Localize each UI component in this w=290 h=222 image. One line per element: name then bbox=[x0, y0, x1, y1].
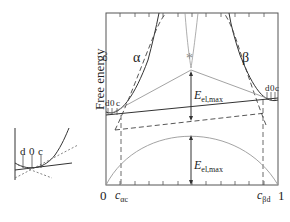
lower-dome bbox=[106, 136, 278, 185]
x-tick-c-alpha: cαc bbox=[115, 188, 128, 204]
plot-frame bbox=[106, 13, 278, 185]
left-point-d: d bbox=[105, 98, 110, 108]
upper-emax-label: Eel,max bbox=[194, 88, 223, 104]
beta-dashed-curve bbox=[224, 13, 266, 125]
alpha-label: α bbox=[133, 50, 140, 66]
right-point-d: d bbox=[265, 83, 270, 93]
x-tick-one: 1 bbox=[278, 188, 285, 204]
star-marker: * bbox=[186, 51, 193, 67]
free-energy-diagram bbox=[0, 0, 290, 222]
left-tangent-gray bbox=[112, 70, 191, 113]
common-tangent bbox=[106, 98, 278, 115]
x-tick-zero: 0 bbox=[100, 188, 107, 204]
x-tick-c-beta: cβd bbox=[257, 188, 270, 204]
left-point-c: c bbox=[116, 98, 120, 108]
right-point-0: 0 bbox=[270, 83, 275, 93]
left-point-0: 0 bbox=[110, 98, 115, 108]
inset-label-c: c bbox=[38, 145, 43, 157]
alpha-dashed-curve bbox=[115, 13, 166, 130]
beta-label: β bbox=[242, 50, 249, 66]
top-ticks bbox=[120, 13, 264, 17]
right-point-c: c bbox=[275, 83, 279, 93]
lower-emax-label: Eel,max bbox=[194, 158, 223, 174]
inset-label-0: 0 bbox=[29, 145, 35, 157]
inset-label-d: d bbox=[20, 145, 26, 157]
